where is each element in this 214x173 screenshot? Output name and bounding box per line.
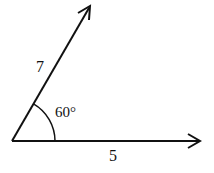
angle-label: 60° [55, 104, 76, 120]
side-label-7: 7 [36, 58, 44, 75]
angle-arc [34, 104, 56, 141]
side-label-5: 5 [109, 147, 117, 164]
angle-diagram: 7 60° 5 [0, 0, 214, 173]
